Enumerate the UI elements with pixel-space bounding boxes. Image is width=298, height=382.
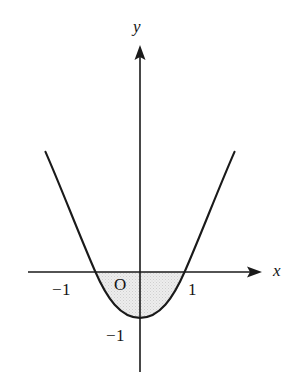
- origin-label: O: [114, 276, 126, 293]
- y-axis-label: y: [133, 18, 141, 35]
- x-axis-label: x: [273, 262, 281, 279]
- x-tick-label-negative-one: −1: [52, 281, 71, 298]
- x-tick-label-positive-one: 1: [188, 281, 197, 298]
- y-tick-label-negative-one: −1: [106, 327, 125, 344]
- parabola-diagram: [0, 0, 298, 382]
- figure-canvas: y x O −1 1 −1: [0, 0, 298, 382]
